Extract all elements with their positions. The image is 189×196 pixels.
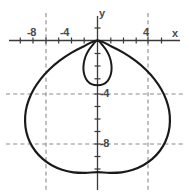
x-axis-label: x xyxy=(172,28,178,39)
x-tick-label-neg8: -8 xyxy=(27,27,36,38)
polar-graph-figure: -8 -4 4 -4 -8 x y xyxy=(0,0,189,196)
y-tick-label-neg8: -8 xyxy=(100,138,109,149)
y-tick-label-neg4: -4 xyxy=(100,88,109,99)
x-tick-label-neg4: -4 xyxy=(60,27,69,38)
x-tick-label-pos4: 4 xyxy=(143,27,149,38)
y-axis-label: y xyxy=(99,8,105,19)
